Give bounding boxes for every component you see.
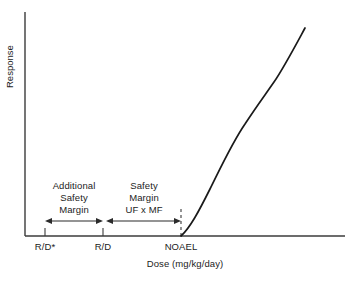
safety-margin-label-line2: Margin: [129, 192, 159, 204]
additional-margin-arrow-head-left: [45, 218, 52, 224]
tick-label-rd: R/D: [95, 241, 112, 253]
tick-label-noael: NOAEL: [165, 241, 198, 253]
additional-margin-arrow-head-right: [96, 218, 103, 224]
additional-margin-label-line1: Additional: [53, 180, 96, 192]
safety-margin-arrow-head-right: [174, 218, 181, 224]
dose-response-figure: Response Dose (mg/kg/day) R/D* R/D NOAEL…: [0, 0, 352, 285]
additional-margin-label-line3: Margin: [59, 204, 89, 216]
x-axis-label: Dose (mg/kg/day): [147, 258, 224, 270]
y-axis-label: Response: [4, 74, 15, 88]
safety-margin-label-line3: UF x MF: [125, 204, 162, 216]
tick-label-rd-star: R/D*: [35, 241, 55, 253]
additional-margin-label-line2: Safety: [60, 192, 88, 204]
dose-response-curve: [181, 28, 305, 236]
safety-margin-label-line1: Safety: [130, 180, 158, 192]
safety-margin-arrow-head-left: [106, 218, 113, 224]
